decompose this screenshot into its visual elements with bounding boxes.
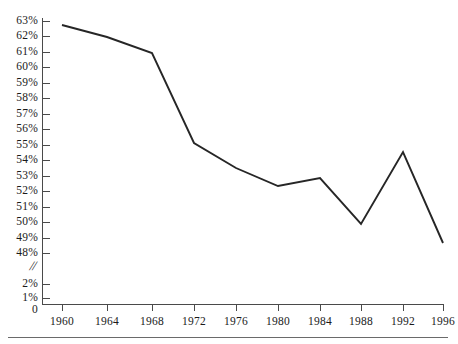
data-series-line bbox=[62, 25, 443, 243]
bottom-rule bbox=[8, 337, 448, 338]
line-chart: 63%62%61%60%59%58%57%56%55%54%53%52%51%5… bbox=[0, 0, 458, 344]
plot-area bbox=[0, 0, 458, 344]
